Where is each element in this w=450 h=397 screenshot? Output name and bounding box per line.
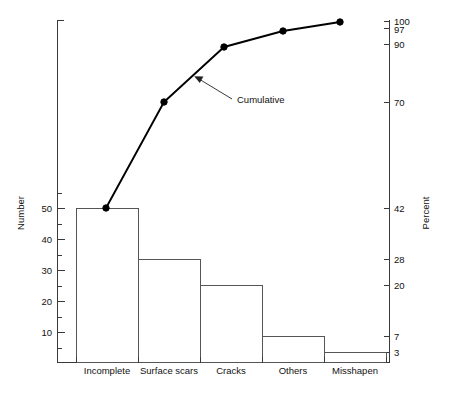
bar-cracks	[201, 286, 263, 363]
right-tick-label-20: 20	[394, 280, 405, 291]
category-label-surface-scars: Surface scars	[140, 365, 198, 376]
right-tick-label-97: 97	[394, 24, 405, 35]
right-tick-label-90: 90	[394, 39, 405, 50]
annotation-arrow-head-icon	[194, 76, 203, 83]
left-tick-label-20: 20	[41, 296, 52, 307]
right-axis-tick-labels: 100 97 90 70 42 28 20 7 3	[394, 16, 410, 358]
cumulative-series	[103, 19, 343, 211]
cumulative-point-90	[221, 44, 227, 50]
bar-incomplete	[77, 209, 139, 363]
right-tick-label-28: 28	[394, 254, 405, 265]
bar-others	[263, 337, 325, 363]
right-axis-ticks	[384, 22, 390, 353]
left-tick-label-40: 40	[41, 234, 52, 245]
annotation-leader-line	[199, 79, 232, 99]
cumulative-point-100	[337, 19, 343, 25]
pareto-chart: 50 40 30 20 10 Number 100 97 90 70 42	[0, 0, 450, 397]
right-tick-label-70: 70	[394, 97, 405, 108]
bar-misshapen	[325, 353, 387, 363]
bars-group	[77, 209, 387, 363]
left-axis-tick-labels: 50 40 30 20 10	[41, 203, 52, 338]
category-label-misshapen: Misshapen	[332, 365, 378, 376]
right-tick-label-3: 3	[394, 347, 399, 358]
category-label-incomplete: Incomplete	[84, 365, 130, 376]
right-tick-label-42: 42	[394, 203, 405, 214]
left-axis-title: Number	[15, 196, 26, 230]
cumulative-point-70	[161, 99, 167, 105]
x-axis-category-labels: Incomplete Surface scars Cracks Others M…	[84, 365, 378, 376]
cumulative-point-42	[103, 205, 109, 211]
cumulative-point-97	[280, 28, 286, 34]
chart-canvas: 50 40 30 20 10 Number 100 97 90 70 42	[0, 0, 450, 397]
axis-group	[58, 20, 390, 363]
bar-surface-scars	[139, 260, 201, 363]
cumulative-annotation: Cumulative	[194, 76, 284, 105]
x-axis-ticks	[77, 357, 387, 363]
right-tick-label-7: 7	[394, 331, 399, 342]
left-tick-label-10: 10	[41, 327, 52, 338]
left-axis-ticks	[58, 21, 65, 349]
left-tick-label-50: 50	[41, 203, 52, 214]
left-tick-label-30: 30	[41, 265, 52, 276]
right-axis-title: Percent	[420, 196, 431, 229]
category-label-others: Others	[279, 365, 308, 376]
category-label-cracks: Cracks	[216, 365, 246, 376]
annotation-label-cumulative: Cumulative	[237, 94, 285, 105]
